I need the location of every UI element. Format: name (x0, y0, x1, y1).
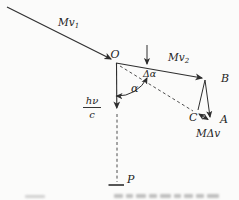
m-delta-v-label: MΔv (195, 127, 220, 139)
m-delta-v-measure-arrow (199, 114, 208, 120)
photon-fraction-denominator: c (89, 109, 95, 120)
momentum-vector-diagram: Mv1 O Mv2 B hν c P α Δα C A MΔv (0, 0, 239, 200)
point-b-label: B (220, 72, 229, 85)
vector-mv1-label: Mv1 (57, 16, 79, 30)
photon-fraction-numerator: hν (86, 95, 99, 106)
vector-mv2-arrow (116, 63, 202, 78)
line-b-to-c (198, 80, 205, 110)
point-c-label: C (189, 111, 198, 124)
point-a-label: A (219, 113, 228, 126)
angle-delta-alpha-label: Δα (142, 68, 157, 79)
cropped-caption-fragment (25, 195, 45, 198)
vector-mv1-arrow (7, 7, 111, 59)
angle-alpha-label: α (131, 82, 139, 95)
point-p-label: P (126, 173, 135, 186)
point-o-label: O (110, 48, 119, 61)
vector-b-to-a (205, 80, 210, 117)
cropped-caption-fragment (114, 194, 219, 198)
vector-mv2-label: Mv2 (167, 51, 190, 65)
photon-momentum-fraction: hν c (83, 95, 101, 120)
figure-page: { "figure": { "labels": { "mv1_base": "M… (0, 0, 239, 200)
